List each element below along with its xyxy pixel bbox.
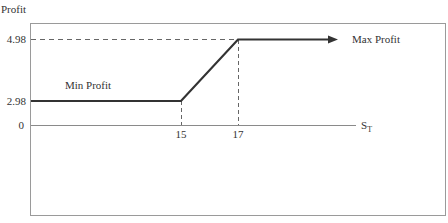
max-profit-label: Max Profit [352,33,400,45]
profit-line [31,40,330,102]
min-profit-label: Min Profit [65,79,111,91]
profit-chart: Profit 4.98 2.98 0 ST 15 17 Min Profit M… [0,0,448,223]
arrow-head-icon [328,36,338,44]
y-tick-0: 0 [19,119,25,131]
x-tick-15: 15 [176,128,188,140]
y-tick-2-98: 2.98 [7,95,27,107]
x-axis-title: ST [361,119,372,134]
y-tick-4-98: 4.98 [7,33,27,45]
x-tick-17: 17 [233,128,245,140]
y-axis-title: Profit [1,3,26,15]
